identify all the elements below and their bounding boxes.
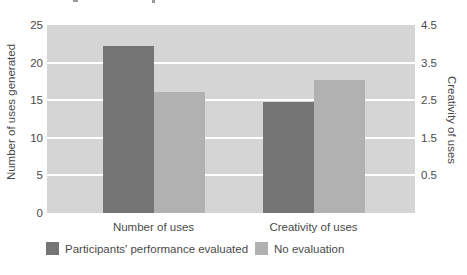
category-label-number-of-uses: Number of uses [113,221,194,233]
bar-evaluated-number [103,46,154,213]
bar-no-evaluation-creativity [314,80,365,213]
left-tick-0: 0 [0,206,43,220]
plot-area [47,25,415,213]
category-label-creativity-of-uses: Creativity of uses [269,221,357,233]
right-tick-1.5: 1.5 [421,131,437,145]
right-axis-title: Creativity of uses [446,76,458,164]
bar-evaluated-creativity [263,102,314,213]
legend-swatch-evaluated [46,242,59,255]
left-tick-10: 10 [0,131,43,145]
right-tick-0.5: 0.5 [421,168,437,182]
bar-chart-figure: Number of uses generated Creativity of u… [0,0,467,275]
legend-label-evaluated: Participants' performance evaluated [65,243,248,255]
left-tick-15: 15 [0,93,43,107]
left-tick-5: 5 [0,168,43,182]
bar-no-evaluation-number [154,92,205,213]
right-tick-3.5: 3.5 [421,56,437,70]
right-tick-4.5: 4.5 [421,18,437,32]
legend-label-no-evaluation: No evaluation [274,243,344,255]
right-tick-2.5: 2.5 [421,93,437,107]
left-tick-25: 25 [0,18,43,32]
left-tick-20: 20 [0,56,43,70]
legend-swatch-no-evaluation [255,242,268,255]
legend: Participants' performance evaluated No e… [0,242,467,258]
cropped-text-artifact [73,0,78,2]
cropped-text-artifact [152,0,155,3]
